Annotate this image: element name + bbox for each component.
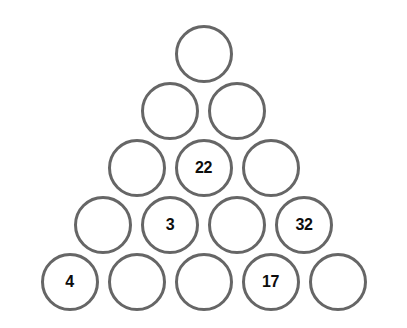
- pyramid-row-3: 22: [0, 139, 407, 197]
- pyramid-cell-r3c1[interactable]: [108, 139, 166, 197]
- pyramid-cell-r5c2[interactable]: [108, 253, 166, 311]
- pyramid-cell-r5c4[interactable]: 17: [242, 253, 300, 311]
- cell-value: 22: [195, 160, 212, 176]
- pyramid-cell-r2c2[interactable]: [208, 82, 266, 140]
- pyramid-row-5: 4 17: [0, 253, 407, 311]
- cell-value: 32: [295, 217, 312, 233]
- pyramid-cell-r1c1[interactable]: [175, 25, 233, 83]
- pyramid-cell-r5c5[interactable]: [309, 253, 367, 311]
- pyramid-cell-r4c4[interactable]: 32: [275, 196, 333, 254]
- pyramid-row-1: [0, 25, 407, 83]
- cell-value: 3: [166, 217, 175, 233]
- pyramid-cell-r5c1[interactable]: 4: [41, 253, 99, 311]
- pyramid-cell-r4c3[interactable]: [208, 196, 266, 254]
- number-pyramid-puzzle: 22 3 32 4 17: [0, 0, 407, 328]
- pyramid-cell-r3c3[interactable]: [242, 139, 300, 197]
- pyramid-cell-r4c1[interactable]: [74, 196, 132, 254]
- pyramid-cell-r3c2[interactable]: 22: [175, 139, 233, 197]
- pyramid-row-2: [0, 82, 407, 140]
- pyramid-row-4: 3 32: [0, 196, 407, 254]
- pyramid-cell-r2c1[interactable]: [141, 82, 199, 140]
- cell-value: 17: [262, 274, 279, 290]
- cell-value: 4: [65, 274, 74, 290]
- pyramid-cell-r5c3[interactable]: [175, 253, 233, 311]
- pyramid-cell-r4c2[interactable]: 3: [141, 196, 199, 254]
